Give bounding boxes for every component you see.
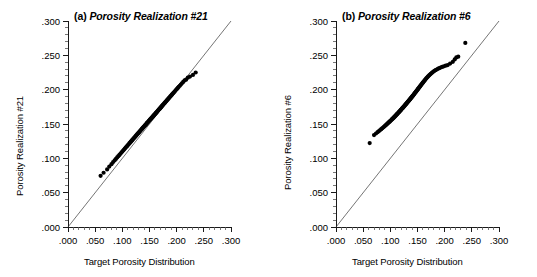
x-tick-label: .100 [381, 235, 400, 246]
x-tick-label: .050 [354, 235, 373, 246]
y-tick-label: .200 [310, 84, 329, 95]
panel-b-xlabel: Target Porosity Distribution [352, 256, 463, 267]
x-tick-label: .200 [435, 235, 454, 246]
data-point [463, 41, 467, 45]
data-points [368, 41, 468, 145]
y-tick-label: .150 [310, 119, 329, 130]
x-tick-label: .150 [408, 235, 427, 246]
y-tick-label: .250 [310, 50, 329, 61]
x-tick-label: .150 [140, 235, 159, 246]
data-point [194, 70, 198, 74]
y-tick-label: .000 [42, 222, 61, 233]
panel-a: (a) Porosity Realization #21 Porosity Re… [0, 0, 268, 277]
x-tick-label: .000 [59, 235, 78, 246]
data-point [456, 55, 460, 59]
panel-a-xlabel: Target Porosity Distribution [84, 256, 195, 267]
x-tick-label: .250 [195, 235, 214, 246]
y-tick-label: .300 [310, 16, 329, 27]
panel-b: (b) Porosity Realization #6 Porosity Rea… [268, 0, 536, 277]
x-tick-label: .300 [222, 235, 241, 246]
qq-plot-figure: (a) Porosity Realization #21 Porosity Re… [0, 0, 537, 277]
y-tick-label: .050 [42, 187, 61, 198]
y-tick-label: .250 [42, 50, 61, 61]
y-tick-label: .050 [310, 187, 329, 198]
y-tick-label: .300 [42, 16, 61, 27]
y-tick-label: .200 [42, 84, 61, 95]
panel-b-plot-area: .000.050.100.150.200.250.300.000.050.100… [268, 0, 536, 250]
y-tick-label: .100 [42, 153, 61, 164]
data-point [368, 141, 372, 145]
x-tick-label: .200 [167, 235, 186, 246]
data-points [99, 70, 198, 178]
x-tick-label: .050 [86, 235, 105, 246]
panel-a-plot-area: .000.050.100.150.200.250.300.000.050.100… [0, 0, 268, 250]
data-point [101, 171, 105, 175]
y-tick-label: .000 [310, 222, 329, 233]
x-tick-label: .000 [327, 235, 346, 246]
data-point [99, 174, 103, 178]
x-tick-label: .100 [113, 235, 132, 246]
x-tick-label: .250 [463, 235, 482, 246]
y-tick-label: .100 [310, 153, 329, 164]
y-tick-label: .150 [42, 119, 61, 130]
reference-line [68, 21, 231, 227]
x-tick-label: .300 [490, 235, 509, 246]
reference-line [336, 21, 499, 227]
